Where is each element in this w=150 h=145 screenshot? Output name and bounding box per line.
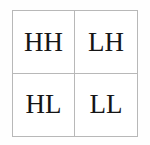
wavelet-subband-diagram: HH LH HL LL (0, 0, 150, 145)
subband-cell-hh: HH (13, 11, 75, 74)
subband-cell-ll: LL (75, 74, 137, 137)
subband-label-ll: LL (90, 91, 123, 118)
subband-label-lh: LH (88, 29, 124, 56)
subband-label-hh: HH (24, 29, 63, 56)
subband-cell-lh: LH (75, 11, 137, 74)
subband-grid: HH LH HL LL (12, 10, 138, 137)
subband-label-hl: HL (26, 91, 62, 118)
subband-cell-hl: HL (13, 74, 75, 137)
